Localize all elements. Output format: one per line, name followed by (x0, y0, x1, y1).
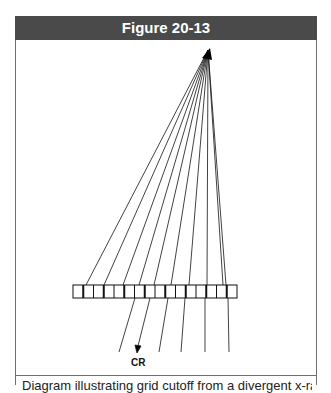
xray-line (123, 50, 208, 285)
xray-line (104, 50, 208, 285)
central-ray-label: CR (131, 357, 145, 368)
xray-line (119, 298, 135, 352)
xray-line (154, 50, 208, 285)
grid (73, 285, 237, 298)
xray-line (189, 50, 208, 285)
xray-line (159, 298, 168, 352)
arrowhead-icon (135, 345, 141, 353)
xray-line (181, 298, 185, 352)
xray-line (208, 50, 226, 285)
xray-line (139, 50, 208, 285)
xray-line (208, 50, 223, 285)
xray-line (207, 50, 208, 285)
focal-spot-icon (202, 48, 212, 60)
figure-caption: Diagram illustrating grid cutoff from a … (22, 378, 312, 393)
caption-divider (15, 375, 317, 376)
central-ray (138, 298, 150, 346)
xray-line (228, 298, 229, 352)
